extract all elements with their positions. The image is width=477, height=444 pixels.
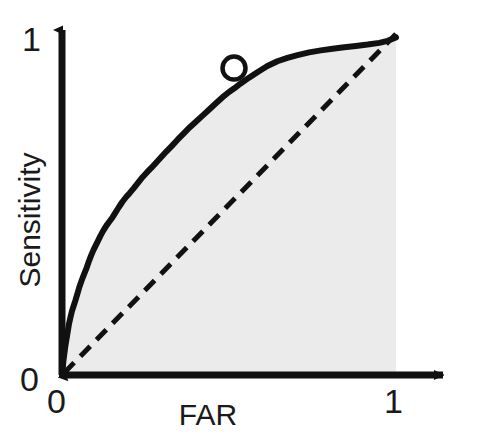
operating-point-marker [223,57,246,80]
x-axis-tick-label-max: 1 [384,384,403,418]
y-axis-tick-label-max: 1 [22,22,41,56]
roc-chart-figure: 1 0 0 1 Sensitivity FAR [0,0,477,444]
roc-chart-canvas [0,0,477,444]
x-axis-title: FAR [160,400,256,430]
y-axis-title: Sensitivity [15,150,45,290]
y-axis-tick-label-min: 0 [20,362,39,396]
x-axis-tick-label-min: 0 [47,384,66,418]
